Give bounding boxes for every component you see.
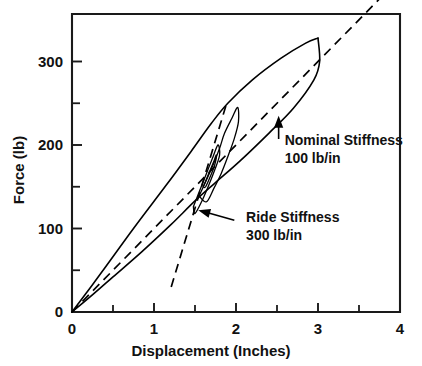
- annotation-arrowhead-ride-stiffness: [198, 209, 211, 218]
- annotation-nominal-stiffness: Nominal Stiffness100 lb/in: [274, 116, 403, 166]
- chart-annotations: Nominal Stiffness100 lb/inRide Stiffness…: [198, 116, 403, 243]
- plot-border: [72, 14, 400, 312]
- axis-ticks: [72, 62, 400, 313]
- x-tick-label-3: 3: [314, 320, 322, 337]
- force-displacement-hysteresis-chart: 012340100200300 Nominal Stiffness100 lb/…: [0, 0, 422, 366]
- annotation-leader-ride-stiffness: [206, 212, 234, 220]
- annotation-label-line2-ride-stiffness: 300 lb/in: [246, 227, 302, 243]
- x-tick-label-4: 4: [396, 320, 405, 337]
- annotation-ride-stiffness: Ride Stiffness300 lb/in: [198, 209, 339, 243]
- series-hysteresis-loop-upper-branch: [72, 38, 318, 312]
- annotation-label-line1-ride-stiffness: Ride Stiffness: [246, 209, 340, 225]
- y-axis-title: Force (lb): [10, 136, 27, 204]
- plot-frame: [72, 14, 400, 312]
- annotation-label-line1-nominal-stiffness: Nominal Stiffness: [285, 132, 403, 148]
- annotation-label-line2-nominal-stiffness: 100 lb/in: [285, 150, 341, 166]
- y-tick-label-3: 300: [38, 53, 63, 70]
- y-tick-label-1: 100: [38, 220, 63, 237]
- x-tick-label-0: 0: [68, 320, 76, 337]
- series-hysteresis-loop-lower-branch: [72, 38, 320, 312]
- annotation-arrowhead-nominal-stiffness: [274, 116, 283, 128]
- x-axis-title: Displacement (Inches): [131, 342, 290, 359]
- x-tick-label-2: 2: [232, 320, 240, 337]
- y-tick-label-0: 0: [55, 303, 63, 320]
- y-tick-label-2: 200: [38, 136, 63, 153]
- series-nominal-stiffness: [72, 0, 396, 312]
- chart-page: 012340100200300 Nominal Stiffness100 lb/…: [0, 0, 422, 366]
- x-tick-label-1: 1: [150, 320, 158, 337]
- chart-curves: [72, 0, 396, 312]
